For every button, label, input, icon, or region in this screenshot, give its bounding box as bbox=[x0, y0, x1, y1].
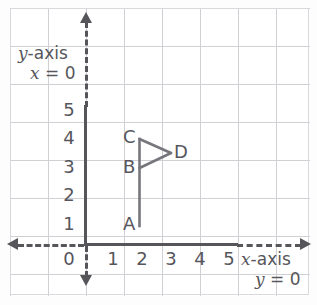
y-axis-caption: y-axis x = 0 bbox=[18, 44, 75, 83]
vertex-label-d: D bbox=[174, 143, 188, 161]
y-axis-equation-var: x bbox=[30, 63, 40, 83]
tick-y-2: 2 bbox=[58, 186, 80, 204]
y-axis-arrow-down-icon bbox=[80, 275, 92, 286]
tick-x-5: 5 bbox=[218, 250, 240, 268]
x-axis-dashed-right bbox=[237, 244, 301, 247]
x-axis-equation-var: y bbox=[255, 269, 265, 289]
y-axis-equation-rest: = 0 bbox=[40, 63, 76, 83]
vertex-label-c: C bbox=[123, 128, 136, 146]
tick-x-1: 1 bbox=[102, 250, 124, 268]
x-axis-caption: x-axis y = 0 bbox=[241, 250, 300, 289]
vertex-label-b: B bbox=[123, 158, 135, 176]
coordinate-grid-figure: y-axis x = 0 x-axis y = 0 0 5 4 3 2 1 1 … bbox=[0, 0, 317, 305]
tick-y-3: 3 bbox=[58, 158, 80, 176]
x-axis-arrow-right-icon bbox=[300, 238, 311, 250]
tick-origin: 0 bbox=[58, 250, 80, 268]
y-axis-line bbox=[84, 105, 87, 245]
y-axis-caption-rest: -axis bbox=[28, 43, 68, 63]
tick-y-1: 1 bbox=[58, 215, 80, 233]
vertex-label-a: A bbox=[123, 215, 135, 233]
x-axis-caption-var: x bbox=[241, 249, 251, 269]
y-axis-arrow-up-icon bbox=[80, 12, 92, 23]
x-axis-dashed-left bbox=[18, 244, 84, 247]
x-axis-arrow-left-icon bbox=[7, 238, 18, 250]
x-axis-line bbox=[84, 243, 238, 246]
tick-y-5: 5 bbox=[58, 101, 80, 119]
y-axis-dashed-bottom bbox=[85, 246, 88, 277]
x-axis-caption-rest: -axis bbox=[251, 249, 291, 269]
tick-x-4: 4 bbox=[189, 250, 211, 268]
y-axis-dashed-top bbox=[85, 22, 88, 107]
tick-x-2: 2 bbox=[131, 250, 153, 268]
y-axis-caption-var: y bbox=[18, 43, 28, 63]
x-axis-equation-rest: = 0 bbox=[265, 269, 301, 289]
tick-y-4: 4 bbox=[58, 129, 80, 147]
tick-x-3: 3 bbox=[160, 250, 182, 268]
